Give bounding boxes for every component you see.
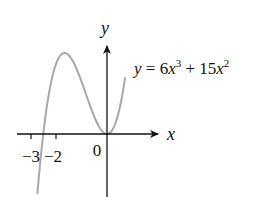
tick-label-minus-2: −2	[44, 147, 62, 166]
origin-label: 0	[93, 141, 102, 160]
equation-label: y = 6x3 + 15x2	[132, 57, 229, 78]
cubic-graph: −3 −2 0 x y y = 6x3 + 15x2	[0, 0, 256, 197]
y-axis-label: y	[99, 18, 109, 38]
cubic-curve	[37, 53, 125, 194]
x-axis-label: x	[166, 124, 175, 144]
tick-label-minus-3: −3	[22, 147, 40, 166]
